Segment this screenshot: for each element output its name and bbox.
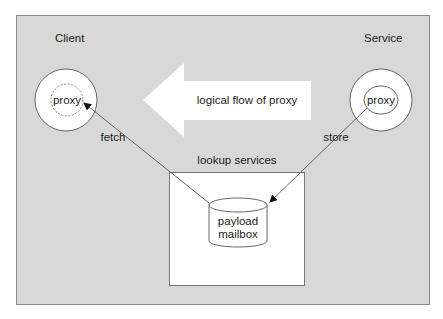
service-proxy-label: proxy (367, 94, 395, 106)
service-label: Service (364, 32, 402, 44)
client-label: Client (55, 32, 85, 44)
mailbox-label-line2: mailbox (218, 228, 258, 240)
store-label: store (323, 131, 349, 143)
fetch-label: fetch (101, 131, 126, 143)
client-proxy-label: proxy (53, 94, 81, 106)
logical-flow-label: logical flow of proxy (197, 94, 298, 106)
proxy-flow-diagram: Client proxy Service proxy logical flow … (0, 0, 443, 319)
mailbox-label-line1: payload (218, 215, 258, 227)
lookup-services-label: lookup services (197, 154, 277, 166)
